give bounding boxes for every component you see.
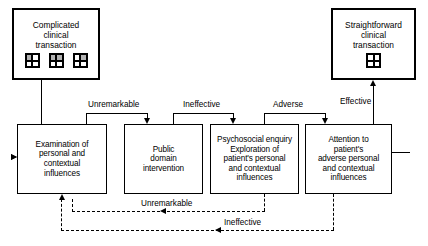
dedge-ineffective-riser-stage1	[61, 199, 62, 231]
edge-ineffective-top-horizontal	[173, 113, 234, 114]
grid-2x2-icon	[73, 53, 88, 68]
label-ineffective-bottom: Ineffective	[223, 218, 262, 227]
grid-2x2-icon	[366, 53, 381, 68]
terminal-straightforward-clinical-transaction: Straightforward clinical transaction	[331, 8, 416, 80]
terminal-complicated-clinical-transaction: Complicated clinical transaction	[12, 8, 100, 80]
grid-2x2-icon	[49, 53, 64, 68]
arrowhead-into-stage1-bottom	[59, 194, 65, 200]
stage-3-label: Psychosocial enquiry Exploration of pati…	[215, 135, 294, 183]
stage-examination-of-influences: Examination of personal and contextual i…	[17, 124, 107, 194]
terminal-complicated-label: Complicated clinical transaction	[33, 20, 80, 51]
stage-4-label: Attention to patient's adverse personal …	[316, 135, 381, 183]
straightforward-icon-row	[366, 53, 381, 68]
arrowhead-unremarkable-feedback-direction	[160, 208, 166, 214]
stage-attention-to-adverse-influences: Attention to patient's adverse personal …	[305, 124, 392, 194]
arrowhead-ineffective-feedback-direction	[215, 227, 221, 233]
arrowhead-into-straightforward-bottom	[370, 80, 376, 86]
stage-1-label: Examination of personal and contextual i…	[34, 140, 91, 178]
label-unremarkable-top: Unremarkable	[87, 100, 140, 109]
stage-psychosocial-enquiry: Psychosocial enquiry Exploration of pati…	[210, 124, 299, 194]
label-effective-top: Effective	[339, 97, 372, 106]
stage-public-domain-intervention: Public domain intervention	[124, 124, 203, 194]
grid-2x2-icon	[25, 53, 40, 68]
label-adverse-top: Adverse	[272, 100, 304, 109]
complicated-icon-row	[25, 53, 88, 68]
dedge-unremarkable-return	[72, 211, 265, 212]
dedge-ineffective-return	[61, 230, 334, 231]
edge-effective-from-stage4	[392, 152, 410, 153]
label-ineffective-top: Ineffective	[182, 100, 221, 109]
dedge-unremarkable-drop-stage3	[264, 194, 265, 211]
edge-unremarkable-top-horizontal	[86, 113, 148, 114]
label-unremarkable-bottom: Unremarkable	[140, 199, 193, 208]
diagram-canvas: Complicated clinical transaction Straigh…	[0, 0, 428, 246]
stage-2-label: Public domain intervention	[141, 145, 186, 174]
dedge-ineffective-drop-stage4	[333, 194, 334, 230]
dedge-unremarkable-riser-stage1	[72, 199, 73, 212]
edge-adverse-top-horizontal	[264, 113, 326, 114]
terminal-straightforward-label: Straightforward clinical transaction	[345, 20, 402, 51]
